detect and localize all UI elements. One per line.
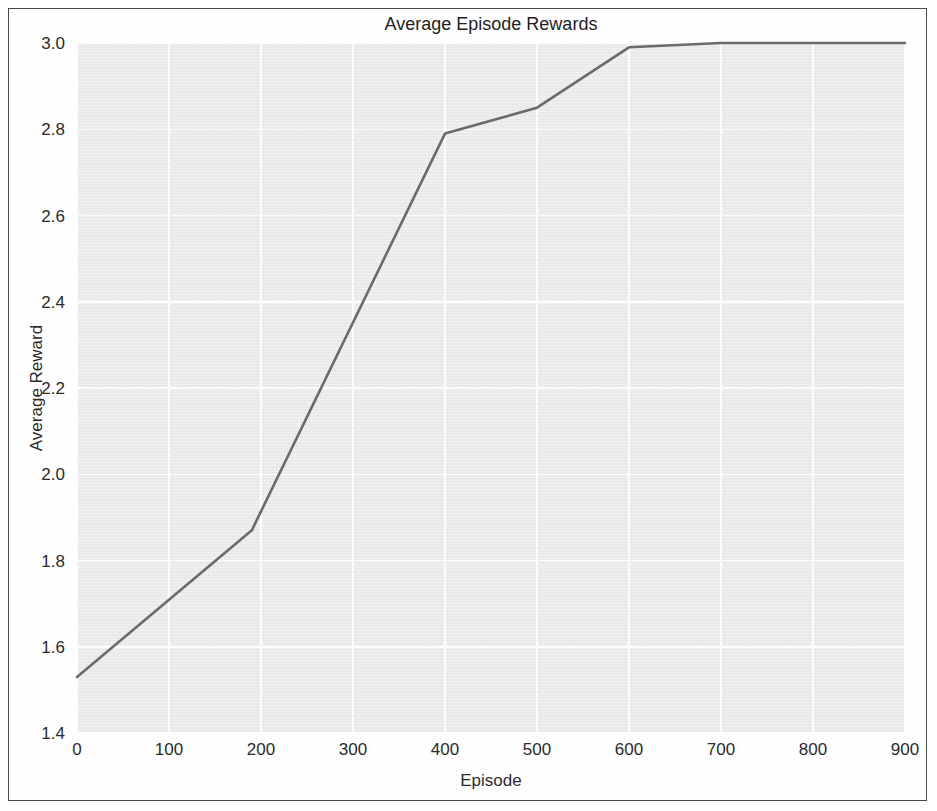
x-tick-label: 800 — [799, 741, 827, 758]
x-tick-label: 400 — [431, 741, 459, 758]
x-tick-label: 0 — [72, 741, 81, 758]
x-tick-label: 500 — [523, 741, 551, 758]
y-tick-label: 1.8 — [0, 553, 65, 570]
x-tick-label: 700 — [707, 741, 735, 758]
chart-title: Average Episode Rewards — [77, 14, 905, 35]
plot-panel — [77, 43, 905, 733]
series-plot — [77, 43, 905, 733]
y-tick-label: 3.0 — [0, 35, 65, 52]
x-tick-label: 600 — [615, 741, 643, 758]
x-tick-label: 200 — [247, 741, 275, 758]
y-tick-label: 1.6 — [0, 639, 65, 656]
x-tick-label: 900 — [891, 741, 919, 758]
y-tick-label: 2.8 — [0, 121, 65, 138]
chart-figure: Average Episode Rewards 1.41.61.82.02.22… — [0, 0, 937, 811]
line-series-average-reward — [77, 43, 905, 677]
y-tick-label: 1.4 — [0, 725, 65, 742]
x-tick-label: 300 — [339, 741, 367, 758]
x-tick-label: 100 — [155, 741, 183, 758]
y-tick-label: 2.6 — [0, 208, 65, 225]
x-axis-label: Episode — [77, 771, 905, 791]
y-axis-label: Average Reward — [27, 288, 47, 488]
